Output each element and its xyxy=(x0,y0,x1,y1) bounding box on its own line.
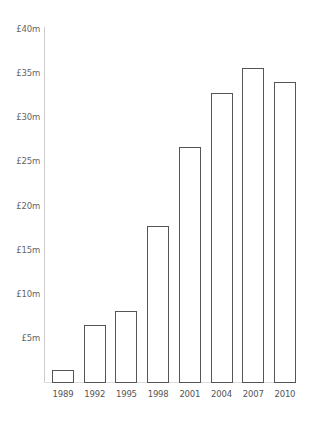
y-tick-label: £10m xyxy=(16,289,40,299)
bar-2007 xyxy=(242,68,264,383)
y-tick-label: £40m xyxy=(16,24,40,34)
y-axis-line xyxy=(44,27,45,383)
bar-2004 xyxy=(211,93,233,383)
bar-1992 xyxy=(84,325,106,383)
x-tick-label: 2004 xyxy=(211,389,232,399)
bar-2001 xyxy=(179,147,201,383)
x-tick-label: 2010 xyxy=(274,389,295,399)
x-tick-label: 1995 xyxy=(116,389,137,399)
bar-2010 xyxy=(274,82,296,383)
x-tick-label: 1998 xyxy=(148,389,169,399)
x-tick-label: 1989 xyxy=(53,389,74,399)
bar-chart: £5m£10m£15m£20m£25m£30m£35m£40m 19891992… xyxy=(0,0,315,424)
bar-1989 xyxy=(52,370,74,383)
y-tick-label: £30m xyxy=(16,112,40,122)
y-tick-label: £15m xyxy=(16,245,40,255)
y-tick-label: £35m xyxy=(16,68,40,78)
y-tick-label: £20m xyxy=(16,201,40,211)
y-tick-label: £25m xyxy=(16,156,40,166)
bar-1998 xyxy=(147,226,169,383)
x-tick-label: 2007 xyxy=(243,389,264,399)
y-tick-label: £5m xyxy=(22,333,41,343)
x-tick-label: 2001 xyxy=(179,389,200,399)
x-tick-label: 1992 xyxy=(84,389,105,399)
bar-1995 xyxy=(115,311,137,383)
